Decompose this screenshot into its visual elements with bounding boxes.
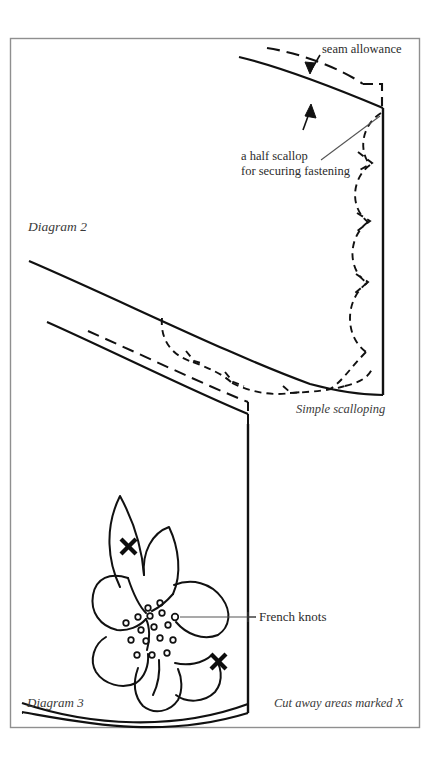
figure-frame-border bbox=[11, 39, 420, 728]
french-knots-label: French knots bbox=[259, 609, 327, 624]
upper-piece-bottom-solid-curve bbox=[29, 261, 383, 395]
french-knot bbox=[151, 624, 157, 630]
cusp-b-3 bbox=[283, 386, 302, 393]
diagram-2-group: Diagram 2 Simple scalloping seam allowan… bbox=[27, 42, 402, 424]
right-edge-scallop-cusps bbox=[354, 152, 372, 294]
french-knot bbox=[149, 652, 155, 658]
simple-scalloping-caption: Simple scalloping bbox=[296, 402, 385, 416]
seam-allowance-label: seam allowance bbox=[322, 42, 402, 56]
scallop-right-2 bbox=[352, 222, 368, 283]
stitching-line-arrow bbox=[303, 104, 316, 130]
french-knot bbox=[128, 637, 134, 643]
scallop-bottom-3 bbox=[232, 383, 290, 394]
french-knot bbox=[157, 600, 163, 606]
cusp-b-1 bbox=[186, 351, 204, 364]
french-knots-leader bbox=[180, 612, 256, 622]
half-scallop bbox=[363, 113, 381, 165]
lower-band-dashed-curve bbox=[88, 331, 248, 402]
scallop-right-3 bbox=[350, 283, 367, 352]
cut-away-caption: Cut away areas marked X bbox=[274, 696, 405, 710]
cut-mark-x-upper bbox=[121, 539, 136, 554]
diagram-3-group: Diagram 3 Cut away areas marked X French… bbox=[22, 424, 405, 727]
french-knot bbox=[145, 605, 151, 611]
half-scallop-leader-line bbox=[321, 116, 380, 160]
french-knot bbox=[165, 622, 171, 628]
lower-band-solid-curve bbox=[47, 322, 248, 414]
petal-separation-2 bbox=[153, 660, 159, 695]
cusp-3 bbox=[354, 274, 368, 294]
cusp-2 bbox=[356, 213, 370, 232]
figure-page: Diagram 2 Simple scalloping seam allowan… bbox=[0, 0, 441, 774]
french-knot bbox=[157, 635, 163, 641]
petal-upper-left-narrow bbox=[109, 496, 144, 587]
french-knot bbox=[138, 627, 144, 633]
half-scallop-label-line1: a half scallop bbox=[241, 149, 308, 163]
french-knot bbox=[159, 610, 165, 616]
french-knot bbox=[123, 620, 129, 626]
french-knot bbox=[170, 637, 176, 643]
french-knot bbox=[135, 614, 141, 620]
french-knot bbox=[147, 613, 153, 619]
diagram-3-caption: Diagram 3 bbox=[26, 695, 84, 710]
flower-motif bbox=[92, 496, 228, 711]
petal-separation-1 bbox=[146, 619, 149, 650]
right-edge-scallops bbox=[330, 113, 381, 389]
french-knot bbox=[164, 650, 170, 656]
french-knot bbox=[134, 652, 140, 658]
french-knot bbox=[172, 614, 179, 621]
scallop-right-4 bbox=[330, 352, 366, 389]
french-knot bbox=[143, 638, 149, 644]
diagram-2-caption: Diagram 2 bbox=[27, 219, 87, 234]
half-scallop-label-line2: for securing fastening bbox=[241, 164, 351, 178]
bottom-curve-scallops bbox=[162, 318, 372, 394]
petal-lower-right bbox=[175, 655, 221, 701]
petal-top bbox=[144, 527, 179, 594]
petal-lower-left bbox=[93, 637, 148, 686]
sewing-pattern-figure: Diagram 2 Simple scalloping seam allowan… bbox=[0, 0, 441, 774]
petal-right bbox=[174, 582, 228, 637]
petal-left-inner bbox=[128, 578, 146, 613]
